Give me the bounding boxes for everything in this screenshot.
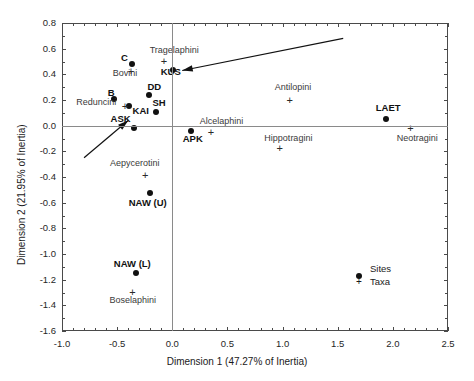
site-point-label: KAI <box>133 105 149 116</box>
x-axis-minor-tick <box>272 328 273 331</box>
y-axis-tick-label: 0.0 <box>22 120 56 131</box>
y-axis-minor-tick <box>445 293 448 294</box>
y-axis-minor-tick <box>62 190 65 191</box>
vertical-zero-axis-line <box>172 23 173 331</box>
taxa-point-label: Tragelaphini <box>150 45 199 55</box>
horizontal-zero-axis-line <box>62 126 448 127</box>
y-axis-minor-tick <box>62 216 65 217</box>
x-axis-minor-tick <box>95 23 96 26</box>
taxa-point-marker <box>285 96 294 105</box>
y-axis-tick-label: 0.6 <box>22 43 56 54</box>
x-axis-minor-tick <box>194 23 195 26</box>
y-axis-tick <box>444 305 448 306</box>
y-axis-tick-label: 0.8 <box>22 17 56 28</box>
x-axis-minor-tick <box>84 23 85 26</box>
x-axis-minor-tick <box>283 23 284 26</box>
y-axis-tick <box>62 331 66 332</box>
y-axis-minor-tick <box>445 164 448 165</box>
y-axis-minor-tick <box>445 190 448 191</box>
y-axis-tick <box>444 74 448 75</box>
y-axis-minor-tick <box>445 113 448 114</box>
x-axis-tick-label: 1.5 <box>318 338 358 349</box>
y-axis-minor-tick <box>445 87 448 88</box>
y-axis-minor-tick <box>445 216 448 217</box>
x-axis-minor-tick <box>106 23 107 26</box>
x-axis-minor-tick <box>426 23 427 26</box>
y-axis-minor-tick <box>62 36 65 37</box>
x-axis-minor-tick <box>205 23 206 26</box>
x-axis-minor-tick <box>360 328 361 331</box>
legend-item-label: Taxa <box>370 276 390 287</box>
site-point-label: NAW (L) <box>114 258 151 269</box>
x-axis-minor-tick <box>183 23 184 26</box>
y-axis-tick-label: -1.2 <box>22 274 56 285</box>
y-axis-tick <box>62 280 66 281</box>
x-axis-tick-label: 2.5 <box>428 338 468 349</box>
x-axis-minor-tick <box>150 328 151 331</box>
correspondence-analysis-scatter-plot: -1.0-0.50.00.51.01.52.02.50.80.60.40.20.… <box>0 0 474 381</box>
x-axis-minor-tick <box>415 23 416 26</box>
x-axis-minor-tick <box>371 23 372 26</box>
y-axis-tick-label: 0.4 <box>22 68 56 79</box>
x-axis-minor-tick <box>161 23 162 26</box>
y-axis-tick-label: -0.2 <box>22 145 56 156</box>
x-axis-minor-tick <box>183 328 184 331</box>
site-point-label: APK <box>183 133 203 144</box>
y-axis-tick-label: -1.4 <box>22 299 56 310</box>
x-axis-tick <box>117 23 118 27</box>
x-axis-minor-tick <box>238 23 239 26</box>
y-axis-tick-label: -0.8 <box>22 222 56 233</box>
x-axis-minor-tick <box>73 23 74 26</box>
x-axis-minor-tick <box>327 23 328 26</box>
taxa-point-label: Neotragini <box>397 133 438 143</box>
taxa-point-marker <box>141 171 150 180</box>
x-axis-minor-tick <box>106 328 107 331</box>
x-axis-tick <box>338 23 339 27</box>
x-axis-minor-tick <box>437 23 438 26</box>
y-axis-tick-label: -0.6 <box>22 197 56 208</box>
x-axis-minor-tick <box>249 23 250 26</box>
y-axis-tick <box>62 203 66 204</box>
y-axis-tick <box>444 228 448 229</box>
x-axis-minor-tick <box>426 328 427 331</box>
site-point-label: B <box>108 87 115 98</box>
y-axis-tick <box>444 203 448 204</box>
x-axis-tick <box>117 327 118 331</box>
x-axis-tick-label: -1.0 <box>42 338 82 349</box>
x-axis-minor-tick <box>327 328 328 331</box>
site-point-marker <box>146 92 152 98</box>
site-point-label: KUS <box>161 66 181 77</box>
site-point-label: C <box>121 52 128 63</box>
y-axis-tick-label: -1.6 <box>22 325 56 336</box>
y-axis-tick <box>62 177 66 178</box>
y-axis-tick <box>444 23 448 24</box>
site-point-marker <box>383 116 389 122</box>
y-axis-minor-tick <box>62 113 65 114</box>
x-axis-minor-tick <box>349 328 350 331</box>
y-axis-tick <box>444 331 448 332</box>
x-axis-minor-tick <box>205 328 206 331</box>
x-axis-minor-tick <box>95 328 96 331</box>
x-axis-minor-tick <box>371 328 372 331</box>
y-axis-tick-label: -1.0 <box>22 248 56 259</box>
site-point-marker <box>147 190 153 196</box>
y-axis-tick <box>62 254 66 255</box>
x-axis-minor-tick <box>261 328 262 331</box>
y-axis-tick <box>444 151 448 152</box>
y-axis-tick <box>444 254 448 255</box>
taxa-point-label: Boselaphini <box>109 295 156 305</box>
x-axis-tick-label: 0.5 <box>207 338 247 349</box>
y-axis-minor-tick <box>445 318 448 319</box>
legend-item-label: Sites <box>370 263 391 274</box>
y-axis-minor-tick <box>445 139 448 140</box>
taxa-point-marker <box>206 128 215 137</box>
site-point-label: DD <box>147 81 161 92</box>
x-axis-tick <box>338 327 339 331</box>
x-axis-minor-tick <box>415 328 416 331</box>
x-axis-tick <box>393 23 394 27</box>
y-axis-tick <box>444 100 448 101</box>
x-axis-minor-tick <box>360 23 361 26</box>
taxa-point-marker <box>275 144 284 153</box>
x-axis-tick <box>448 23 449 27</box>
x-axis-title: Dimension 1 (47.27% of Inertia) <box>0 356 474 367</box>
